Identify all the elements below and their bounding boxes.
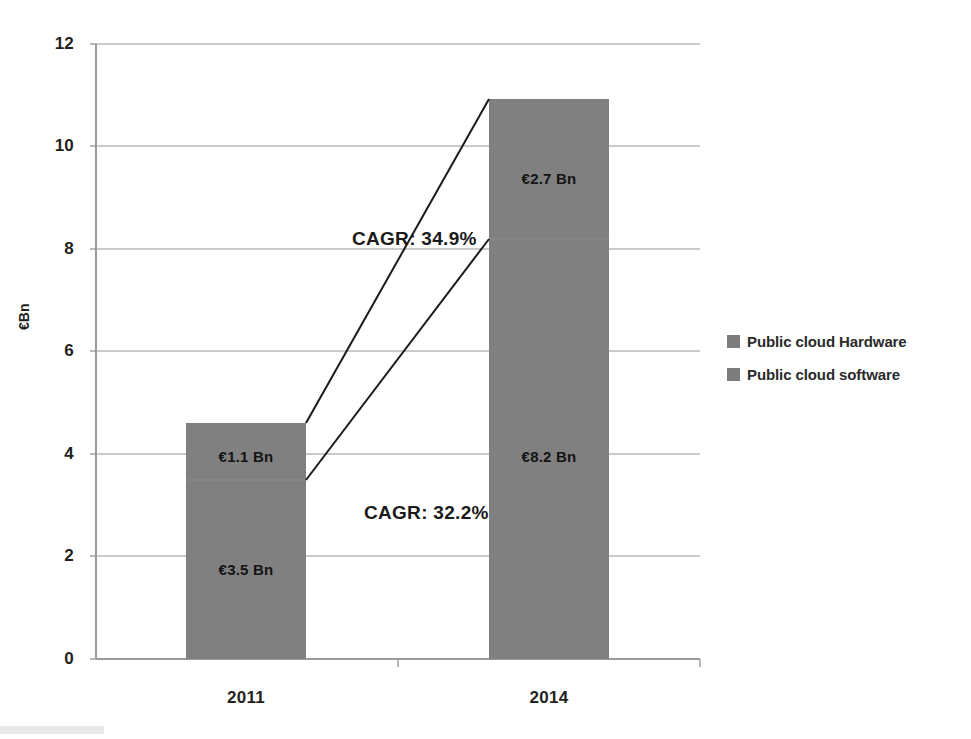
y-tick-label-6: 6 [28,342,74,359]
chart-container: 12 10 8 6 4 2 0 €Bn 2011 2014 €1.1 Bn €3… [0,0,971,739]
cagr-connector-software [306,239,489,480]
chart-legend: Public cloud Hardware Public cloud softw… [727,333,959,399]
bar-label-2014-hardware: €2.7 Bn [469,170,629,187]
legend-label-hardware: Public cloud Hardware [747,333,907,350]
y-tick-label-0: 0 [28,650,74,667]
legend-item-public-cloud-software[interactable]: Public cloud software [727,366,959,383]
y-tick-label-2: 2 [28,547,74,564]
scan-artifact-smudge [0,726,104,734]
x-tick-label-2014: 2014 [469,688,629,708]
bar-label-2014-software: €8.2 Bn [469,448,629,465]
y-axis-title: €Bn [16,304,32,330]
cagr-connector-lines [306,99,489,480]
y-tick-label-12: 12 [28,35,74,52]
bar-segment-2014-hardware[interactable] [489,99,609,239]
cagr-connector-total [306,99,489,423]
legend-label-software: Public cloud software [747,366,900,383]
y-tick-label-10: 10 [28,137,74,154]
y-tick-label-8: 8 [28,240,74,257]
legend-item-public-cloud-hardware[interactable]: Public cloud Hardware [727,333,959,350]
bar-label-2011-software: €3.5 Bn [166,561,326,578]
cagr-annotation-total: CAGR: 34.9% [352,228,477,250]
bar-label-2011-hardware: €1.1 Bn [166,448,326,465]
legend-swatch-icon-hardware [727,335,740,348]
legend-swatch-icon-software [727,368,740,381]
x-tick-label-2011: 2011 [166,688,326,708]
cagr-annotation-software: CAGR: 32.2% [364,502,489,524]
y-tick-label-4: 4 [28,445,74,462]
x-axis-ticks [398,659,700,667]
